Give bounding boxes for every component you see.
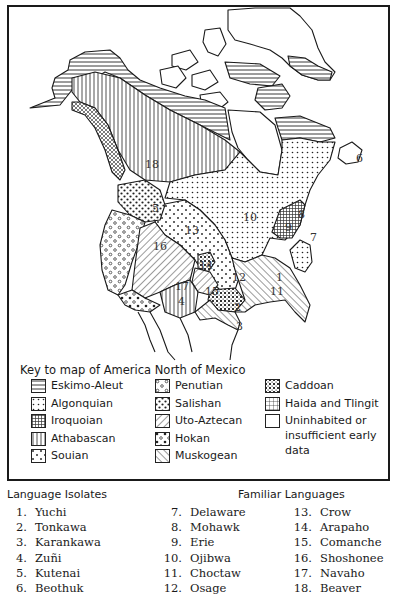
list-item-name: Comanche [320, 535, 382, 550]
legend-column-2: Penutian Salishan Uto-Aztecan Hokan Musk… [155, 379, 242, 467]
list-item-number: 5. [5, 566, 27, 581]
list-item-number: 11. [160, 566, 182, 581]
list-item-number: 3. [5, 535, 27, 550]
list-item: 15.Comanche [290, 535, 383, 550]
list-item: 4.Zuñi [5, 551, 101, 566]
athabascan-swatch-icon [31, 432, 46, 446]
legend-item-penutian: Penutian [155, 379, 242, 397]
list-item-name: Beothuk [35, 581, 84, 596]
arctic-island [225, 62, 280, 86]
region-number-label: 18 [145, 158, 159, 171]
salishan-swatch-icon [155, 397, 170, 411]
isolates-heading: Language Isolates [7, 488, 107, 501]
legend-title: Key to map of America North of Mexico [20, 363, 245, 377]
language-map: 186510897131614121111715423 [0, 0, 409, 365]
legend-item-haida-tlingit: Haida and Tlingit [265, 397, 380, 415]
legend-column-3: Caddoan Haida and Tlingit Uninhabited or… [265, 379, 380, 458]
list-item: 11.Choctaw [160, 566, 246, 581]
list-item-name: Tonkawa [35, 520, 87, 535]
list-item-name: Yuchi [35, 505, 67, 520]
list-item: 9.Erie [160, 535, 246, 550]
list-item: 18.Beaver [290, 581, 383, 596]
caddoan-swatch-icon [265, 379, 280, 393]
list-item: 3.Karankawa [5, 535, 101, 550]
list-item-number: 10. [160, 551, 182, 566]
list-item-number: 8. [160, 520, 182, 535]
list-item-name: Erie [190, 535, 214, 550]
list-item-number: 6. [5, 581, 27, 596]
arctic-island [192, 70, 218, 90]
list-item-name: Osage [190, 581, 226, 596]
region-number-label: 2 [234, 301, 241, 314]
souian-swatch-icon [31, 449, 46, 463]
list-item-number: 12. [160, 581, 182, 596]
region-number-label: 8 [298, 208, 305, 221]
list-item: 1.Yuchi [5, 505, 101, 520]
list-item-number: 15. [290, 535, 312, 550]
list-item-number: 18. [290, 581, 312, 596]
region-number-label: 12 [232, 271, 246, 284]
list-item: 14.Arapaho [290, 520, 383, 535]
arctic-island [203, 28, 226, 56]
isolates-list: 1.Yuchi2.Tonkawa3.Karankawa4.Zuñi5.Kuten… [5, 505, 101, 596]
region-number-label: 5 [152, 202, 159, 215]
familiar-list-col2: 13.Crow14.Arapaho15.Comanche16.Shoshonee… [290, 505, 383, 596]
list-item-number: 4. [5, 551, 27, 566]
list-item-number: 13. [290, 505, 312, 520]
legend-column-1: Eskimo-Aleut Algonquian Iroquoian Athaba… [31, 379, 123, 467]
muskogean-swatch-icon [155, 449, 170, 463]
list-item-name: Beaver [320, 581, 361, 596]
region-number-label: 17 [175, 280, 189, 293]
labrador-eskimo [275, 116, 335, 142]
region-number-label: 15 [205, 285, 219, 298]
list-item-number: 9. [160, 535, 182, 550]
region-number-label: 9 [285, 221, 292, 234]
penutian-swatch-icon [155, 379, 170, 393]
list-item-name: Karankawa [35, 535, 101, 550]
legend-item-athabascan: Athabascan [31, 432, 123, 450]
list-item: 5.Kutenai [5, 566, 101, 581]
list-item: 12.Osage [160, 581, 246, 596]
baja-california [138, 312, 155, 352]
legend-item-salishan: Salishan [155, 397, 242, 415]
list-item-number: 7. [160, 505, 182, 520]
list-item-name: Arapaho [320, 520, 369, 535]
list-item-name: Choctaw [190, 566, 241, 581]
list-item: 13.Crow [290, 505, 383, 520]
hokan-swatch-icon [155, 432, 170, 446]
legend-item-souian: Souian [31, 449, 123, 467]
list-item-number: 16. [290, 551, 312, 566]
eskimo-aleut-swatch-icon [31, 379, 46, 393]
uto-aztecan-swatch-icon [155, 414, 170, 428]
list-item: 17.Navaho [290, 566, 383, 581]
list-item-number: 14. [290, 520, 312, 535]
list-item-name: Ojibwa [190, 551, 231, 566]
legend-item-algonquian: Algonquian [31, 397, 123, 415]
region-number-label: 11 [270, 285, 284, 298]
list-item: 2.Tonkawa [5, 520, 101, 535]
list-item: 8.Mohawk [160, 520, 246, 535]
list-item-name: Shoshonee [320, 551, 383, 566]
familiar-heading: Familiar Languages [238, 488, 345, 501]
algonquian-coast [290, 240, 312, 272]
list-item-name: Crow [320, 505, 351, 520]
list-item-number: 1. [5, 505, 27, 520]
legend-item-eskimo-aleut: Eskimo-Aleut [31, 379, 123, 397]
algonquian-swatch-icon [31, 397, 46, 411]
region-number-label: 13 [185, 224, 199, 237]
list-item: 10.Ojibwa [160, 551, 246, 566]
legend-item-caddoan: Caddoan [265, 379, 380, 397]
list-item: 6.Beothuk [5, 581, 101, 596]
list-item-name: Delaware [190, 505, 246, 520]
region-number-label: 4 [178, 295, 185, 308]
region-number-label: 3 [236, 320, 243, 333]
region-number-label: 14 [199, 259, 213, 272]
region-number-label: 7 [310, 231, 317, 244]
list-item-name: Navaho [320, 566, 365, 581]
legend-item-iroquoian: Iroquoian [31, 414, 123, 432]
list-item-name: Mohawk [190, 520, 240, 535]
haida-tlingit-swatch-icon [265, 397, 280, 411]
list-item-name: Zuñi [35, 551, 61, 566]
legend-item-muskogean: Muskogean [155, 449, 242, 467]
region-number-label: 6 [356, 152, 363, 165]
